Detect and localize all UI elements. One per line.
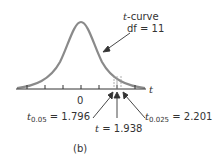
panel-label: (b) (73, 143, 87, 154)
t05-label: t0.05 = 1.796 (27, 111, 90, 126)
curve-arrow (106, 33, 130, 50)
axis-label: t (149, 84, 153, 95)
axis-ticks (27, 85, 135, 89)
t05-arrow (93, 95, 112, 118)
t025-arrow (125, 95, 145, 118)
tstat-label: t = 1.938 (95, 123, 142, 134)
t-curve (17, 22, 145, 88)
curve-label: t-curve (123, 11, 159, 22)
t-distribution-plot (0, 0, 215, 163)
zero-tick-label: 0 (77, 95, 83, 106)
t025-label: t0.025 = 2.201 (145, 111, 212, 126)
df-label: df = 11 (127, 23, 164, 34)
